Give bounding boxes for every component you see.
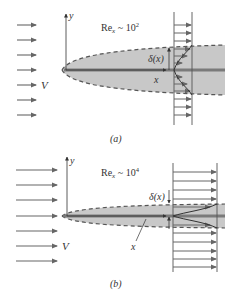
thickness-label: δ(x) <box>148 53 164 65</box>
panel-caption: (b) <box>110 278 122 290</box>
freestream-arrows <box>17 25 36 115</box>
boundary-layer-diagram: y x V Rex ~ 102 δ(x) <box>0 0 237 296</box>
panel-a: y x V Rex ~ 102 δ(x) <box>17 10 225 145</box>
thickness-label: δ(x) <box>149 191 165 203</box>
x-axis-label: x <box>153 74 159 85</box>
panel-b: y x V Rex ~ 104 δ(x) <box>16 155 225 290</box>
freestream-arrows <box>16 170 57 261</box>
panel-caption: (a) <box>110 133 122 145</box>
reynolds-number-label: Rex ~ 104 <box>101 166 140 180</box>
y-axis-label: y <box>68 10 74 21</box>
reynolds-number-label: Rex ~ 102 <box>101 21 139 35</box>
freestream-velocity-label: V <box>62 240 70 252</box>
x-axis-label: x <box>130 241 136 252</box>
freestream-velocity-label: V <box>41 79 49 91</box>
y-axis-label: y <box>69 155 75 166</box>
